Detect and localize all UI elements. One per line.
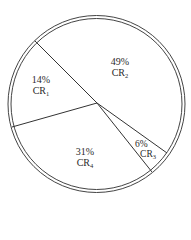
cr3-percent: 6% (134, 139, 156, 149)
cr2-name: CR2 (107, 67, 133, 81)
cr1-percent: 14% (28, 74, 54, 85)
cr2-percent: 49% (107, 56, 133, 67)
slice-label-cr3: 6% CR3 (134, 139, 156, 162)
slice-label-cr2: 49% CR2 (107, 56, 133, 81)
slice-label-cr4: 31% CR4 (72, 146, 98, 171)
cr4-percent: 31% (72, 146, 98, 157)
divider-cr1-cr4 (12, 103, 97, 127)
cr4-name: CR4 (72, 157, 98, 171)
divider-cr3-cr2 (97, 103, 167, 153)
cr3-name: CR3 (134, 149, 156, 162)
cr1-name: CR1 (28, 85, 54, 99)
slice-label-cr1: 14% CR1 (28, 74, 54, 99)
